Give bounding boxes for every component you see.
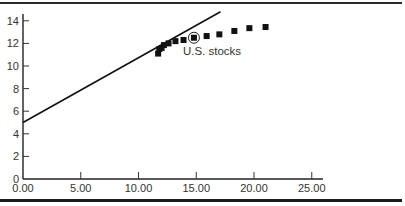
data-point xyxy=(181,37,187,43)
data-point xyxy=(263,24,269,30)
x-tick-label: 10.00 xyxy=(125,182,153,194)
x-tick-label: 20.00 xyxy=(240,182,268,194)
y-tick-label: 4 xyxy=(13,128,19,140)
y-tick-label: 8 xyxy=(13,83,19,95)
y-tick-label: 10 xyxy=(7,60,19,72)
data-point xyxy=(204,33,210,39)
x-tick-label: 5.00 xyxy=(70,182,91,194)
annotation-label: U.S. stocks xyxy=(183,45,241,57)
data-point xyxy=(191,35,197,41)
data-point xyxy=(246,25,252,31)
scatter-chart: 024681012140.005.0010.0015.0020.0025.00 … xyxy=(0,0,405,206)
y-tick-label: 12 xyxy=(7,37,19,49)
data-point xyxy=(172,38,178,44)
y-tick-label: 6 xyxy=(13,105,19,117)
y-tick-label: 14 xyxy=(7,15,19,27)
y-tick-label: 2 xyxy=(13,150,19,162)
capital-market-line xyxy=(23,12,221,123)
data-point xyxy=(166,40,172,46)
x-tick-label: 25.00 xyxy=(298,182,326,194)
x-tick-label: 15.00 xyxy=(182,182,210,194)
trend-line xyxy=(23,12,221,123)
x-tick-label: 0.00 xyxy=(12,182,33,194)
data-point xyxy=(216,31,222,37)
data-point xyxy=(231,28,237,34)
